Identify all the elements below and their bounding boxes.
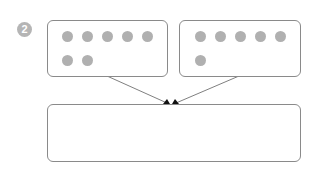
counter-dot [195, 55, 206, 66]
counter-dot [142, 31, 153, 42]
counter-dot [102, 31, 113, 42]
group-box-right [179, 20, 301, 77]
counter-dot [255, 31, 266, 42]
counter-dot [275, 31, 286, 42]
arrow-right-to-result [176, 76, 239, 103]
counter-dot [235, 31, 246, 42]
counter-dot [215, 31, 226, 42]
counter-dot [82, 31, 93, 42]
counter-dot [122, 31, 133, 42]
counter-dot [195, 31, 206, 42]
arrow-left-to-result [107, 76, 167, 103]
counter-dot [82, 55, 93, 66]
group-box-left [47, 20, 168, 77]
counter-dot [62, 55, 73, 66]
counter-dot [62, 31, 73, 42]
result-box [47, 104, 301, 162]
